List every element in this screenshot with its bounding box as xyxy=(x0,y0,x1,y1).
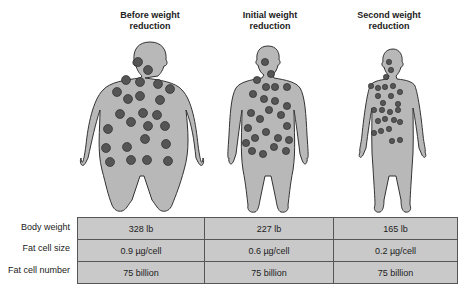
body-figures xyxy=(0,0,468,220)
body-before-icon xyxy=(80,42,203,211)
data-table: 328 lb 227 lb 165 lb 0.9 µg/cell 0.6 µg/… xyxy=(77,217,458,284)
table-cell: 165 lb xyxy=(334,218,458,240)
row-label-body-weight: Body weight xyxy=(21,222,70,232)
table-cell: 0.6 µg/cell xyxy=(205,240,334,262)
table-cell: 0.2 µg/cell xyxy=(334,240,458,262)
table-row: 0.9 µg/cell 0.6 µg/cell 0.2 µg/cell xyxy=(78,240,458,262)
table-cell: 227 lb xyxy=(205,218,334,240)
table-cell: 75 billion xyxy=(205,262,334,284)
table-cell: 328 lb xyxy=(78,218,205,240)
table-cell: 75 billion xyxy=(78,262,205,284)
table-row: 75 billion 75 billion 75 billion xyxy=(78,262,458,284)
row-label-fat-cell-size: Fat cell size xyxy=(22,243,70,253)
table-row: 328 lb 227 lb 165 lb xyxy=(78,218,458,240)
row-label-fat-cell-number: Fat cell number xyxy=(8,265,70,275)
table-cell: 0.9 µg/cell xyxy=(78,240,205,262)
table-cell: 75 billion xyxy=(334,262,458,284)
body-second-icon xyxy=(359,49,426,212)
